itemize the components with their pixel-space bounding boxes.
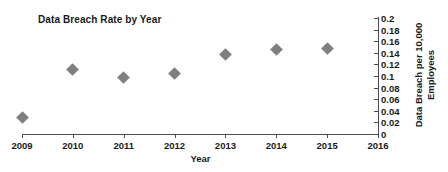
data-point bbox=[270, 44, 283, 57]
x-axis-tick-label: 2010 bbox=[62, 140, 83, 151]
y-axis-tick bbox=[374, 122, 378, 123]
y-axis-tick-label: 0.12 bbox=[381, 59, 400, 70]
x-axis-tick-label: 2015 bbox=[317, 140, 338, 151]
x-axis-tick bbox=[276, 134, 277, 138]
x-axis-tick bbox=[175, 134, 176, 138]
y-axis-tick bbox=[374, 111, 378, 112]
data-point bbox=[16, 111, 29, 124]
chart-container: Data Breach Rate by Year Year Data Breac… bbox=[0, 0, 448, 172]
y-axis-tick bbox=[374, 53, 378, 54]
y-axis-tick-label: 0.2 bbox=[381, 13, 394, 24]
x-axis-tick-label: 2009 bbox=[11, 140, 32, 151]
y-axis-tick bbox=[374, 99, 378, 100]
x-axis-tick bbox=[22, 134, 23, 138]
data-point bbox=[168, 67, 181, 80]
y-axis-tick-label: 0.16 bbox=[381, 36, 400, 47]
y-axis-tick bbox=[374, 41, 378, 42]
x-axis-tick-label: 2012 bbox=[164, 140, 185, 151]
y-axis-tick bbox=[374, 18, 378, 19]
x-axis-tick-label: 2011 bbox=[113, 140, 134, 151]
x-axis-tick bbox=[327, 134, 328, 138]
x-axis-tick bbox=[225, 134, 226, 138]
y-axis-tick-label: 0.1 bbox=[381, 71, 394, 82]
y-axis-line bbox=[378, 17, 379, 135]
data-point bbox=[117, 71, 130, 84]
plot-area bbox=[22, 18, 378, 134]
x-axis-tick bbox=[73, 134, 74, 138]
y-axis-title-line-1: Data Breach per 10,000 bbox=[413, 23, 425, 128]
y-axis-tick-label: 0.04 bbox=[381, 105, 400, 116]
data-point bbox=[219, 48, 232, 61]
y-axis-tick bbox=[374, 76, 378, 77]
y-axis-tick bbox=[374, 88, 378, 89]
data-point bbox=[321, 42, 334, 55]
x-axis-title: Year bbox=[22, 153, 379, 164]
y-axis-tick-label: 0.14 bbox=[381, 47, 400, 58]
y-axis-tick-label: 0 bbox=[381, 129, 386, 140]
y-axis-tick bbox=[374, 134, 378, 135]
x-axis-tick-label: 2014 bbox=[266, 140, 287, 151]
y-axis-tick-label: 0.18 bbox=[381, 24, 400, 35]
y-axis-tick bbox=[374, 64, 378, 65]
y-axis-title: Data Breach per 10,000 Employees bbox=[405, 0, 445, 150]
x-axis-line bbox=[22, 134, 379, 135]
y-axis-tick bbox=[374, 30, 378, 31]
y-axis-title-line-2: Employees bbox=[425, 23, 437, 128]
x-axis-tick bbox=[378, 134, 379, 138]
x-axis-tick-label: 2013 bbox=[215, 140, 236, 151]
x-axis-tick-label: 2016 bbox=[367, 140, 388, 151]
y-axis-tick-label: 0.02 bbox=[381, 117, 400, 128]
data-point bbox=[66, 63, 79, 76]
y-axis-tick-label: 0.06 bbox=[381, 94, 400, 105]
y-axis-tick-label: 0.08 bbox=[381, 82, 400, 93]
x-axis-tick bbox=[124, 134, 125, 138]
